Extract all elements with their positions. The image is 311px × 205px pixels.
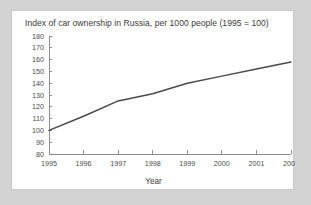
chart-plot-area: 8090100110120130140150160170180 19951996… — [12, 11, 295, 191]
y-axis-tick-label: 140 — [32, 79, 44, 88]
x-axis-tick-label: 1998 — [145, 159, 161, 168]
y-axis-tick-label: 100 — [32, 126, 44, 135]
x-axis-tick-label: 2002 — [283, 159, 295, 168]
y-axis-tick-label: 80 — [36, 150, 44, 159]
y-axis-tick-labels: 8090100110120130140150160170180 — [32, 32, 44, 159]
x-axis-tick-label: 1996 — [76, 159, 92, 168]
x-axis-title: Year — [12, 177, 295, 186]
y-axis-tick-label: 170 — [32, 43, 44, 52]
y-axis-tick-label: 120 — [32, 102, 44, 111]
x-axis-tick-labels: 19951996199719981999200020012002 — [41, 159, 295, 168]
x-axis-tick-label: 2001 — [248, 159, 264, 168]
y-axis-tick-label: 130 — [32, 91, 44, 100]
x-axis-tick-marks — [49, 150, 291, 154]
y-axis-tick-label: 90 — [36, 138, 44, 147]
y-axis-tick-label: 160 — [32, 55, 44, 64]
x-axis-tick-label: 1997 — [110, 159, 126, 168]
y-axis-tick-label: 180 — [32, 32, 44, 41]
y-axis-tick-label: 110 — [33, 114, 44, 123]
chart-figure: Index of car ownership in Russia, per 10… — [11, 10, 294, 190]
x-axis-tick-label: 1995 — [41, 159, 57, 168]
data-series-line — [49, 62, 291, 130]
x-axis-tick-label: 2000 — [214, 159, 230, 168]
y-axis-tick-label: 150 — [32, 67, 44, 76]
x-axis-tick-label: 1999 — [179, 159, 195, 168]
